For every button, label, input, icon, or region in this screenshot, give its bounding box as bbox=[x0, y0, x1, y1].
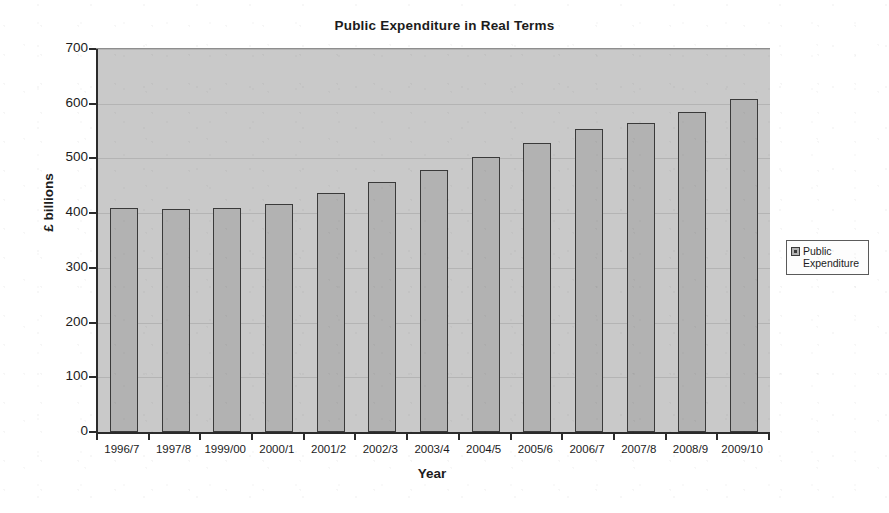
bar-group bbox=[98, 49, 150, 432]
y-axis-label: 700 bbox=[34, 40, 88, 55]
bar-group bbox=[667, 49, 719, 432]
x-axis-tick bbox=[665, 433, 667, 440]
legend-label-line-1: Public bbox=[803, 245, 832, 257]
y-axis-label: 0 bbox=[34, 423, 88, 438]
bar bbox=[627, 123, 655, 432]
x-axis-tick bbox=[510, 433, 512, 440]
bars-layer bbox=[98, 49, 770, 432]
x-axis-label: 2009/10 bbox=[716, 443, 768, 455]
x-axis-label: 2002/3 bbox=[354, 443, 406, 455]
bar-group bbox=[253, 49, 305, 432]
x-axis-label: 2007/8 bbox=[613, 443, 665, 455]
y-axis-tick bbox=[89, 103, 96, 105]
bar-group bbox=[615, 49, 667, 432]
x-axis-title: Year bbox=[96, 466, 768, 481]
y-axis-tick bbox=[89, 376, 96, 378]
bar-group bbox=[356, 49, 408, 432]
x-axis-label: 2005/6 bbox=[510, 443, 562, 455]
x-axis-label: 2000/1 bbox=[251, 443, 303, 455]
x-axis-label: 2003/4 bbox=[406, 443, 458, 455]
bar bbox=[265, 204, 293, 432]
bar-group bbox=[201, 49, 253, 432]
legend-label: Public Expenditure bbox=[803, 245, 863, 269]
bar bbox=[678, 112, 706, 432]
bar-group bbox=[408, 49, 460, 432]
bar bbox=[472, 157, 500, 432]
y-axis-tick bbox=[89, 431, 96, 433]
bar-group bbox=[150, 49, 202, 432]
x-axis-tick bbox=[303, 433, 305, 440]
x-axis-tick bbox=[406, 433, 408, 440]
x-axis-label: 1996/7 bbox=[96, 443, 148, 455]
x-axis-label: 1999/00 bbox=[199, 443, 251, 455]
y-axis-label: 600 bbox=[34, 95, 88, 110]
x-axis-tick bbox=[768, 433, 770, 440]
x-axis-label: 2001/2 bbox=[303, 443, 355, 455]
bar-group bbox=[460, 49, 512, 432]
x-axis-tick bbox=[716, 433, 718, 440]
x-axis-tick bbox=[199, 433, 201, 440]
x-axis-label: 1997/8 bbox=[148, 443, 200, 455]
bar bbox=[110, 208, 138, 432]
chart-title: Public Expenditure in Real Terms bbox=[0, 18, 889, 33]
bar bbox=[575, 129, 603, 432]
legend-label-line-2: Expenditure bbox=[803, 257, 859, 269]
x-axis-tick bbox=[613, 433, 615, 440]
x-axis-tick bbox=[561, 433, 563, 440]
y-axis-tick bbox=[89, 212, 96, 214]
bar bbox=[523, 143, 551, 432]
plot-area bbox=[96, 49, 770, 434]
bar bbox=[317, 193, 345, 432]
x-axis-tick bbox=[96, 433, 98, 440]
bar bbox=[730, 99, 758, 432]
x-axis-label: 2008/9 bbox=[665, 443, 717, 455]
x-axis-tick bbox=[251, 433, 253, 440]
bar bbox=[162, 209, 190, 432]
y-axis-tick bbox=[89, 48, 96, 50]
bar bbox=[420, 170, 448, 432]
y-axis-tick bbox=[89, 322, 96, 324]
chart-legend: Public Expenditure bbox=[786, 240, 869, 275]
legend-swatch-icon bbox=[791, 247, 800, 256]
bar-group bbox=[718, 49, 770, 432]
bar-group bbox=[305, 49, 357, 432]
bar bbox=[368, 182, 396, 432]
x-axis-label: 2004/5 bbox=[458, 443, 510, 455]
y-axis-tick bbox=[89, 157, 96, 159]
x-axis-tick bbox=[354, 433, 356, 440]
x-axis-tick bbox=[148, 433, 150, 440]
bar-group bbox=[512, 49, 564, 432]
y-axis-label: 100 bbox=[34, 368, 88, 383]
x-axis-tick bbox=[458, 433, 460, 440]
bar-group bbox=[563, 49, 615, 432]
bar-chart: Public Expenditure in Real Terms 0100200… bbox=[0, 0, 889, 513]
y-axis-label: 200 bbox=[34, 314, 88, 329]
y-axis-title: £ billions bbox=[41, 143, 56, 263]
x-axis-label: 2006/7 bbox=[561, 443, 613, 455]
bar bbox=[213, 208, 241, 432]
y-axis-tick bbox=[89, 267, 96, 269]
